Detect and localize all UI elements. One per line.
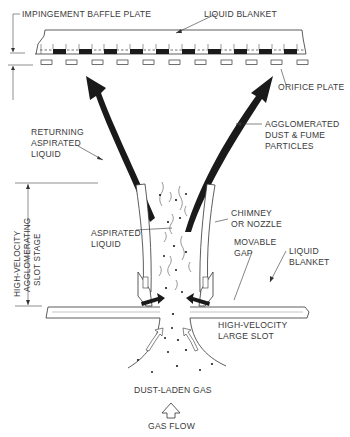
scrubber-diagram: IMPINGEMENT BAFFLE PLATE LIQUID BLANKET … xyxy=(0,0,350,437)
gas-jet xyxy=(159,182,191,290)
svg-text:ASPIRATED: ASPIRATED xyxy=(31,138,81,148)
label-agglomerated-particles: AGGLOMERATED DUST & FUME PARTICLES xyxy=(265,119,339,151)
label-orifice-plate: ORIFICE PLATE xyxy=(278,82,344,92)
label-chimney-nozzle: CHIMNEY OR NOZZLE xyxy=(231,208,282,229)
svg-text:HIGH-VELOCITY: HIGH-VELOCITY xyxy=(218,320,288,330)
svg-text:BLANKET: BLANKET xyxy=(289,257,330,267)
label-returning-aspirated-liquid: RETURNING ASPIRATED LIQUID xyxy=(31,127,84,159)
svg-text:ASPIRATED: ASPIRATED xyxy=(91,228,141,238)
svg-text:OR NOZZLE: OR NOZZLE xyxy=(231,219,282,229)
gas-flow-arrow-icon xyxy=(162,403,180,418)
svg-text:AGGLOMERATED: AGGLOMERATED xyxy=(265,119,339,129)
label-gas-flow: GAS FLOW xyxy=(148,421,196,431)
svg-text:CHIMNEY: CHIMNEY xyxy=(231,208,272,218)
svg-text:LIQUID: LIQUID xyxy=(91,239,121,249)
orifice-plate xyxy=(41,60,308,65)
label-liquid-blanket-top: LIQUID BLANKET xyxy=(204,9,278,19)
label-stage-dimension: HIGH-VELOCITY AGGLOMERATING SLOT STAGE xyxy=(13,218,42,297)
impingement-baffle-plate xyxy=(35,30,306,54)
label-liquid-blanket-side: LIQUID BLANKET xyxy=(289,246,330,267)
svg-text:GAP: GAP xyxy=(234,248,253,258)
label-movable-gap: MOVABLE GAP xyxy=(234,237,276,258)
svg-text:LIQUID: LIQUID xyxy=(31,149,61,159)
slot-inlet xyxy=(128,318,226,368)
label-impingement-baffle-plate: IMPINGEMENT BAFFLE PLATE xyxy=(22,9,151,19)
svg-text:LARGE SLOT: LARGE SLOT xyxy=(218,331,275,341)
svg-text:HIGH-VELOCITY: HIGH-VELOCITY xyxy=(13,230,22,297)
leader-lines xyxy=(78,14,286,300)
svg-text:SLOT STAGE: SLOT STAGE xyxy=(33,233,42,286)
baffle-dimension-marker xyxy=(8,14,33,100)
svg-text:LIQUID: LIQUID xyxy=(289,246,319,256)
svg-text:RETURNING: RETURNING xyxy=(31,127,84,137)
svg-text:MOVABLE: MOVABLE xyxy=(234,237,276,247)
label-dust-laden-gas: DUST-LADEN GAS xyxy=(134,385,212,395)
label-large-slot: HIGH-VELOCITY LARGE SLOT xyxy=(218,320,288,341)
label-aspirated-liquid: ASPIRATED LIQUID xyxy=(91,228,141,249)
svg-text:PARTICLES: PARTICLES xyxy=(265,141,314,151)
slot-plate xyxy=(46,307,309,318)
svg-text:AGGLOMERATING: AGGLOMERATING xyxy=(23,218,32,292)
svg-text:DUST & FUME: DUST & FUME xyxy=(265,130,325,140)
